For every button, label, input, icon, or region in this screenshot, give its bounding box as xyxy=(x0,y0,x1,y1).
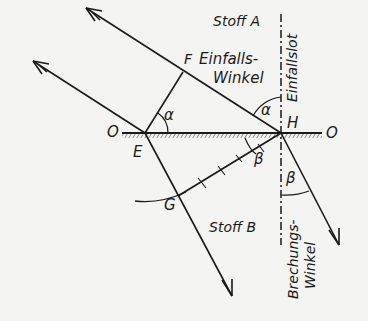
angle-arc-beta-H xyxy=(281,191,309,195)
label-incidence-angle-1: Einfalls- xyxy=(199,52,258,67)
refraction-diagram: Stoff A Stoff B F Einfalls- Winkel Einfa… xyxy=(0,0,368,321)
label-point-H: H xyxy=(287,116,298,131)
label-incidence-angle-2: Winkel xyxy=(213,71,264,86)
label-point-O-right: O xyxy=(326,126,338,141)
label-normal: Einfallslot xyxy=(285,34,299,102)
label-alpha-H: α xyxy=(261,103,271,118)
interface-surface xyxy=(122,133,322,138)
label-alpha-E: α xyxy=(164,108,174,123)
label-point-F: F xyxy=(184,52,192,66)
label-refraction-angle-2: Winkel xyxy=(303,242,317,289)
label-stoff-a: Stoff A xyxy=(213,14,260,28)
wavefront-GH xyxy=(178,133,281,196)
arrow-icon xyxy=(329,228,339,245)
label-point-O-left: O xyxy=(107,125,119,140)
arrow-icon xyxy=(222,279,232,296)
label-point-E: E xyxy=(133,145,142,160)
label-stoff-b: Stoff B xyxy=(209,220,256,234)
label-refraction-angle-1: Brechungs- xyxy=(286,219,300,299)
label-point-G: G xyxy=(164,198,176,213)
incident-ray-lower xyxy=(33,61,145,133)
label-beta-mid: β xyxy=(254,152,264,167)
refracted-ray-E xyxy=(145,133,232,296)
label-beta-H: β xyxy=(286,171,296,186)
